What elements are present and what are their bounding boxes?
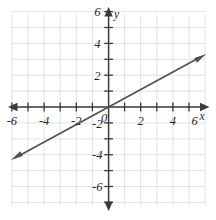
y-tick-label-pos2: 2 xyxy=(94,69,100,83)
y-tick-label-pos4: 4 xyxy=(94,37,100,51)
x-tick-label-neg6: -6 xyxy=(7,114,18,128)
x-tick-label-pos4: 4 xyxy=(170,114,176,128)
x-axis-arrow-left xyxy=(8,103,18,111)
plot-arrow-right xyxy=(194,54,206,63)
graph-canvas: -6 -4 -2 2 4 6 6 4 2 -2 -4 -6 0 x y xyxy=(0,0,216,220)
x-tick-label-pos6: 6 xyxy=(191,114,198,128)
axes xyxy=(8,7,210,211)
coordinate-plane-figure: -6 -4 -2 2 4 6 6 4 2 -2 -4 -6 0 x y xyxy=(0,0,216,220)
x-tick-label-pos2: 2 xyxy=(138,114,144,128)
origin-label: 0 xyxy=(101,111,108,125)
y-tick-label-neg4: -4 xyxy=(92,148,102,162)
tick-labels: -6 -4 -2 2 4 6 6 4 2 -2 -4 -6 0 xyxy=(7,5,199,194)
y-tick-label-pos6: 6 xyxy=(94,5,101,19)
x-tick-label-neg4: -4 xyxy=(39,114,49,128)
plot-arrow-left xyxy=(11,151,23,160)
axis-names: x y xyxy=(113,8,206,123)
y-axis-label: y xyxy=(113,8,120,21)
x-axis-label: x xyxy=(198,110,205,122)
x-tick-label-neg2: -2 xyxy=(71,114,81,128)
y-tick-label-neg6: -6 xyxy=(92,180,103,194)
